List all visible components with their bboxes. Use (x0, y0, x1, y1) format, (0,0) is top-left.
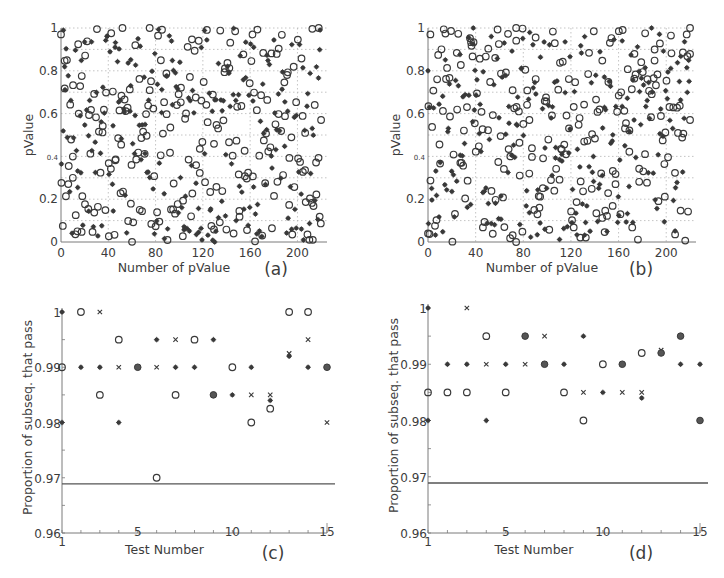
open-circle-marker (246, 80, 253, 87)
x-tick-label: 15 (692, 525, 707, 539)
open-circle-marker (576, 115, 583, 122)
open-circle-marker (70, 153, 77, 160)
x-axis-label: Test Number (124, 542, 205, 557)
open-circle-marker (682, 237, 689, 244)
open-circle-marker (650, 75, 657, 82)
open-circle-marker (204, 119, 211, 126)
cross-marker (620, 390, 624, 394)
open-circle-marker (524, 87, 531, 94)
x-tick-label: 0 (424, 246, 432, 260)
open-circle-marker (593, 96, 600, 103)
open-circle-marker (78, 73, 85, 80)
cross-marker (98, 310, 102, 314)
filled-circle-marker (677, 333, 684, 340)
panel-label: (c) (262, 543, 285, 563)
open-circle-marker (519, 228, 526, 235)
open-circle-marker (254, 26, 261, 33)
open-circle-marker (97, 392, 104, 399)
filled-circle-marker (210, 392, 217, 399)
open-circle-marker (72, 212, 79, 219)
open-circle-marker (93, 114, 100, 121)
y-axis-label: pValue (21, 114, 36, 157)
open-circle-marker (184, 44, 191, 51)
filled-circle-marker (541, 361, 548, 368)
open-circle-marker (513, 37, 520, 44)
open-circle-marker (626, 148, 633, 155)
open-circle-marker (651, 57, 658, 64)
y-tick-label: 0.97 (34, 472, 61, 486)
open-circle-marker (478, 109, 485, 116)
x-axis-label: Test Number (494, 542, 575, 557)
open-circle-marker (213, 184, 220, 191)
open-circle-marker (440, 108, 447, 115)
open-circle-marker (482, 53, 489, 60)
axes (62, 308, 327, 533)
open-circle-marker (187, 74, 194, 81)
open-circle-marker (191, 47, 198, 54)
open-circle-marker (227, 39, 234, 46)
open-circle-marker (550, 28, 557, 35)
open-circle-marker (454, 106, 461, 113)
open-circle-marker (505, 146, 512, 153)
x-tick-label: 200 (655, 246, 678, 260)
open-circle-marker (593, 210, 600, 217)
x-axis-label: Number of pValue (118, 260, 231, 275)
open-circle-marker (599, 57, 606, 64)
open-circle-marker (440, 26, 447, 33)
open-circle-marker (161, 99, 168, 106)
open-circle-marker (429, 124, 436, 131)
open-circle-marker (132, 42, 139, 49)
cross-marker (640, 390, 644, 394)
open-circle-marker (143, 111, 150, 118)
open-circle-marker (488, 188, 495, 195)
open-circle-marker (244, 227, 251, 234)
open-circle-marker (230, 230, 237, 237)
open-circle-marker (78, 309, 85, 316)
open-circle-marker (128, 162, 135, 169)
open-circle-marker (196, 170, 203, 177)
open-circle-marker (581, 101, 588, 108)
filled-circle-marker (697, 417, 704, 424)
y-tick-label: 0 (417, 235, 425, 249)
filled-circle-marker (522, 333, 529, 340)
y-tick-label: 0.4 (414, 154, 426, 162)
chart-b: 0408012016020000.20.40.60.81Number of pV… (362, 0, 724, 290)
filled-circle-marker (134, 364, 141, 371)
open-circle-marker (148, 78, 155, 85)
open-circle-marker (636, 179, 643, 186)
open-circle-marker (258, 92, 265, 99)
y-tick-label: 1 (419, 302, 427, 316)
axes (428, 304, 700, 533)
chart-a: 0408012016020000.20.40.60.81Number of pV… (0, 0, 362, 290)
open-circle-marker (436, 141, 443, 148)
open-circle-marker (158, 57, 165, 64)
open-circle-marker (202, 179, 209, 186)
open-circle-marker (447, 113, 454, 120)
x-tick-label: 160 (239, 246, 262, 260)
open-circle-marker (430, 87, 437, 94)
open-circle-marker (197, 146, 204, 153)
open-circle-marker (118, 141, 125, 148)
open-circle-marker (458, 62, 465, 69)
open-circle-marker (501, 224, 508, 231)
open-circle-marker (516, 172, 523, 179)
open-circle-marker (490, 112, 497, 119)
y-axis-label: Proportion of subseq. that pass (20, 320, 35, 515)
open-circle-marker (580, 417, 587, 424)
open-circle-marker (155, 32, 162, 39)
cross-marker (306, 337, 310, 341)
filled-circle-marker (619, 361, 626, 368)
open-circle-marker (545, 136, 552, 143)
cross-marker (268, 393, 272, 397)
open-circle-marker (555, 86, 562, 93)
open-circle-marker (600, 361, 607, 368)
open-circle-marker (272, 121, 279, 128)
open-circle-marker (619, 27, 626, 34)
open-circle-marker (199, 139, 206, 146)
y-tick-label: 0.8 (406, 64, 425, 78)
open-circle-marker (65, 163, 72, 170)
open-circle-marker (281, 79, 288, 86)
open-circle-marker (672, 170, 679, 177)
cross-marker (581, 390, 585, 394)
x-axis-label: Number of pValue (486, 260, 599, 275)
